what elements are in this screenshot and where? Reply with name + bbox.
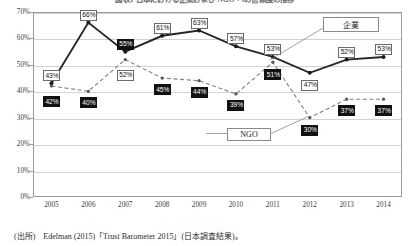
y-axis-tick-label: 70% <box>0 8 30 16</box>
y-axis-tick-label: 40% <box>0 87 30 95</box>
y-axis-tick-label: 50% <box>0 61 30 69</box>
data-label: 30% <box>301 125 318 136</box>
data-label: 51% <box>264 69 281 80</box>
data-point <box>271 61 274 64</box>
data-point <box>50 84 53 87</box>
data-point <box>123 50 127 54</box>
y-axis-tick-label: 0% <box>0 193 30 201</box>
data-point <box>308 116 311 119</box>
annotation-corporations: 企業 <box>323 17 379 32</box>
data-point <box>271 55 275 59</box>
series-line-ngo <box>51 60 383 118</box>
y-axis-tick <box>30 197 33 198</box>
data-label: 37% <box>338 105 355 116</box>
data-label: 52% <box>117 70 134 81</box>
x-axis-tick-label: 2014 <box>364 201 404 209</box>
data-point <box>86 21 90 25</box>
data-label: 55% <box>117 39 134 50</box>
x-axis-tick-label: 2008 <box>142 201 182 209</box>
x-axis-tick-label: 2011 <box>253 201 293 209</box>
data-point <box>161 76 164 79</box>
data-point <box>197 79 200 82</box>
x-axis-tick-label: 2012 <box>290 201 330 209</box>
chart-container: 図表1 日本における企業および NGO への信頼度の推移 0%10%20%30%… <box>0 0 410 246</box>
x-axis-tick-label: 2009 <box>179 201 219 209</box>
data-label: 66% <box>80 10 97 21</box>
y-axis-tick-label: 60% <box>0 34 30 42</box>
data-point <box>345 98 348 101</box>
data-point <box>382 55 386 59</box>
y-axis-tick-label: 20% <box>0 140 30 148</box>
data-label: 63% <box>191 18 208 29</box>
data-label: 45% <box>154 84 171 95</box>
y-axis-tick-label: 30% <box>0 114 30 122</box>
data-point <box>160 34 164 38</box>
data-point <box>345 58 349 62</box>
data-label: 52% <box>338 47 355 58</box>
data-label: 44% <box>191 87 208 98</box>
x-axis-tick-label: 2006 <box>68 201 108 209</box>
data-label: 43% <box>43 70 60 81</box>
data-label: 40% <box>80 97 97 108</box>
data-label: 37% <box>375 105 392 116</box>
x-axis-tick-label: 2005 <box>31 201 71 209</box>
y-axis-tick-label: 10% <box>0 167 30 175</box>
data-point <box>308 71 312 75</box>
x-axis-tick-label: 2013 <box>327 201 367 209</box>
data-point <box>124 58 127 61</box>
data-point <box>87 90 90 93</box>
annotation-ngo: NGO <box>227 128 271 141</box>
source-note: (出所) Edelman (2015)「Trust Barometer 2015… <box>14 230 243 241</box>
data-point <box>234 44 238 48</box>
data-label: 61% <box>154 23 171 34</box>
data-point <box>382 98 385 101</box>
data-label: 53% <box>264 44 281 55</box>
data-label: 42% <box>43 96 60 107</box>
data-label: 47% <box>301 80 318 91</box>
x-axis-tick-label: 2010 <box>216 201 256 209</box>
data-label: 57% <box>227 33 244 44</box>
data-label: 39% <box>227 100 244 111</box>
data-point <box>197 29 201 33</box>
x-axis-tick-label: 2007 <box>105 201 145 209</box>
data-point <box>234 92 237 95</box>
chart-title: 図表1 日本における企業および NGO への信頼度の推移 <box>0 0 410 4</box>
data-label: 53% <box>375 44 392 55</box>
